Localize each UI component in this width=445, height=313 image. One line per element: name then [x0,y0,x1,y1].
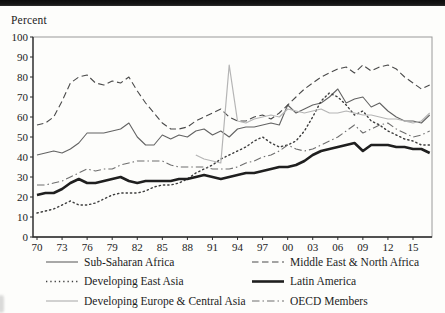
x-tick-label: 03 [307,241,319,253]
line-chart-canvas: 0102030405060708090100707376798285889194… [0,0,445,313]
scanned-page: Percent 01020304050607080901007073767982… [0,0,445,313]
x-tick-label: 88 [182,241,194,253]
legend-label-sub-saharan-africa: Sub-Saharan Africa [84,256,174,268]
x-tick-label: 82 [132,241,143,253]
x-tick-label: 97 [257,241,269,253]
legend-label-oecd-members: OECD Members [290,295,368,307]
x-tick-label: 12 [382,241,393,253]
x-tick-label: 76 [82,241,94,253]
y-tick-label: 0 [23,231,29,243]
legend-item-latin-america: Latin America [252,275,356,287]
legend-item-developing-europe-central-asia: Developing Europe & Central Asia [46,295,246,308]
y-tick-label: 40 [17,151,29,163]
axis-lines [33,37,432,237]
y-tick-label: 80 [17,71,29,83]
legend-label-middle-east-north-africa: Middle East & North Africa [290,256,419,268]
x-tick-label: 70 [32,241,44,253]
x-tick-label: 73 [57,241,69,253]
series-line-latin-america [37,143,430,195]
legend-label-latin-america: Latin America [290,275,356,287]
y-tick-label: 70 [17,91,29,103]
x-tick-label: 06 [332,241,344,253]
x-tick-label: 91 [207,241,218,253]
legend-label-developing-east-asia: Developing East Asia [84,275,184,288]
x-tick-label: 00 [282,241,294,253]
y-tick-label: 60 [17,111,29,123]
legend-item-oecd-members: OECD Members [252,295,368,307]
x-tick-label: 15 [408,241,420,253]
y-tick-label: 100 [12,31,29,43]
x-tick-label: 85 [157,241,169,253]
x-tick-label: 79 [107,241,119,253]
legend-label-developing-europe-central-asia: Developing Europe & Central Asia [84,295,246,308]
series-line-developing-europe-central-asia [196,65,430,163]
legend-item-sub-saharan-africa: Sub-Saharan Africa [46,256,174,268]
legend-item-developing-east-asia: Developing East Asia [46,275,184,288]
y-tick-label: 30 [17,171,29,183]
series-line-developing-east-asia [37,93,430,213]
plot-frame [33,37,432,237]
x-tick-label: 94 [232,241,244,253]
legend-item-middle-east-north-africa: Middle East & North Africa [252,256,419,268]
y-tick-label: 10 [17,211,29,223]
y-tick-label: 90 [17,51,29,63]
x-tick-label: 09 [357,241,369,253]
y-tick-label: 20 [17,191,29,203]
y-tick-label: 50 [17,131,29,143]
